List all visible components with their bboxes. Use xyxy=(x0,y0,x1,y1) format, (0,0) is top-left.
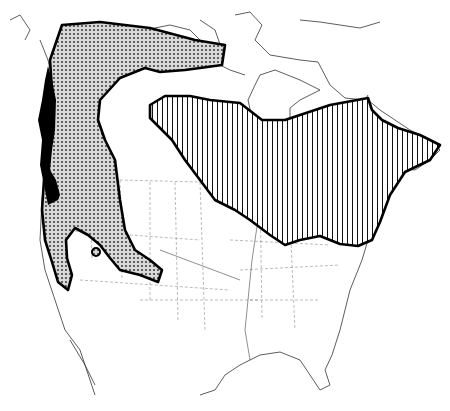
eastern-range xyxy=(150,96,440,246)
isolated-population xyxy=(92,248,100,256)
range-map xyxy=(0,0,450,411)
